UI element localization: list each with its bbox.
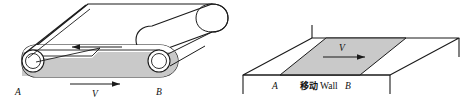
wall-label-b: B (345, 81, 351, 91)
conveyor-belt-diagram: A B V (14, 4, 228, 99)
diagram-canvas: A B V V (0, 0, 471, 102)
moving-wall-diagram: V A 移动 Wall B (243, 25, 459, 94)
figure-root: A B V V (0, 0, 471, 102)
wall-label-wall: Wall (320, 81, 338, 91)
bottom-belt-arrow (70, 81, 120, 87)
belt-label-b: B (156, 87, 162, 97)
wall-label-cjk: 移动 (300, 80, 318, 91)
wall-label-a: A (271, 81, 278, 91)
belt-label-a: A (14, 87, 21, 97)
belt-label-velocity: V (92, 89, 99, 99)
